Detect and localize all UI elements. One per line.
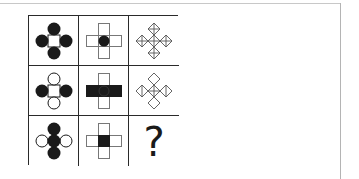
rect-cross-figure-icon: [82, 69, 126, 113]
puzzle-grid: ?: [28, 15, 178, 165]
cell-r1c3: [129, 16, 179, 66]
cell-r2c1: [29, 66, 79, 116]
rect-cross-figure-icon: [82, 19, 126, 63]
cell-r3c3-missing: ?: [129, 116, 179, 166]
circle-cross-figure-icon: [32, 119, 76, 163]
diamond-cross-figure-icon: [132, 69, 176, 113]
circle-cross-figure-icon: [32, 69, 76, 113]
cell-r1c1: [29, 16, 79, 66]
cell-r2c3: [129, 66, 179, 116]
cell-r2c2: [79, 66, 129, 116]
question-mark: ?: [143, 122, 164, 162]
outer-frame-top-border: [0, 3, 341, 4]
cell-r3c2: [79, 116, 129, 166]
cell-r1c2: [79, 16, 129, 66]
outer-frame-right-border: [340, 3, 341, 179]
rect-cross-figure-icon: [82, 119, 126, 163]
cell-r3c1: [29, 116, 79, 166]
diamond-cross-figure-icon: [132, 19, 176, 63]
circle-cross-figure-icon: [32, 19, 76, 63]
